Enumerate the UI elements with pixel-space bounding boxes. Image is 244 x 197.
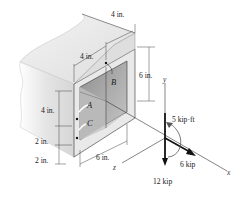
label-axial-force: 6 kip	[180, 160, 196, 169]
y-axis-label: y	[162, 75, 167, 84]
dim-left-upper: 4 in.	[41, 106, 55, 115]
z-axis-line	[122, 138, 165, 163]
dim-left-lower: 2 in.	[35, 156, 49, 165]
x-axis-label: x	[226, 168, 231, 177]
dim-top-width: 4 in.	[80, 52, 94, 61]
point-b-dot	[105, 62, 107, 64]
applied-loads: 12 kip 6 kip 5 kip·ft	[153, 113, 196, 186]
beam-body	[20, 14, 135, 157]
dim-left-mid: 2 in.	[35, 137, 49, 146]
dim-right-height: 6 in.	[139, 71, 153, 80]
point-a-dot	[76, 118, 78, 120]
label-moment: 5 kip·ft	[172, 115, 195, 124]
label-point-b: B	[111, 77, 116, 87]
beam-diagram: B A C 4 in. 4 in. 6 in.	[0, 0, 244, 197]
label-point-c: C	[87, 118, 93, 128]
axial-force-shaft	[165, 138, 190, 152]
dim-top-depth: 4 in.	[111, 10, 125, 19]
label-point-a: A	[86, 100, 93, 110]
dim-bottom-width: 6 in.	[96, 153, 110, 162]
diagram-canvas: B A C 4 in. 4 in. 6 in.	[0, 0, 244, 197]
z-axis-label: z	[112, 163, 116, 172]
shear-force-arrowhead	[162, 158, 168, 166]
label-shear-force: 12 kip	[153, 177, 172, 186]
point-c-dot	[76, 137, 78, 139]
